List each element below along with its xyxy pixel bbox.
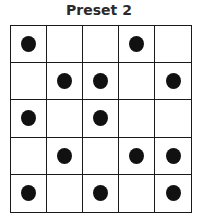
grid-cell-r2-c2 bbox=[47, 63, 83, 100]
grid-cell-r4-c3 bbox=[83, 138, 119, 175]
dot-icon bbox=[166, 185, 181, 201]
grid-cell-r4-c2 bbox=[47, 138, 83, 175]
dot-icon bbox=[129, 148, 144, 164]
grid-cell-r1-c5 bbox=[155, 26, 191, 63]
grid-cell-r1-c4 bbox=[119, 26, 155, 63]
grid-cell-r3-c4 bbox=[119, 100, 155, 137]
grid-cell-r4-c5 bbox=[155, 138, 191, 175]
dot-icon bbox=[93, 185, 108, 201]
grid-cell-r3-c1 bbox=[11, 100, 47, 137]
grid-cell-r3-c3 bbox=[83, 100, 119, 137]
grid-cell-r1-c3 bbox=[83, 26, 119, 63]
grid-cell-r5-c1 bbox=[11, 175, 47, 212]
grid-cell-r1-c1 bbox=[11, 26, 47, 63]
grid-cell-r5-c5 bbox=[155, 175, 191, 212]
grid-cell-r2-c4 bbox=[119, 63, 155, 100]
grid-cell-r3-c2 bbox=[47, 100, 83, 137]
dot-icon bbox=[21, 36, 36, 52]
dot-icon bbox=[93, 73, 108, 89]
preset-title: Preset 2 bbox=[0, 1, 198, 19]
dot-icon bbox=[166, 148, 181, 164]
grid-cell-r5-c3 bbox=[83, 175, 119, 212]
grid-cell-r5-c2 bbox=[47, 175, 83, 212]
dot-icon bbox=[21, 110, 36, 126]
dot-icon bbox=[166, 73, 181, 89]
dot-icon bbox=[57, 73, 72, 89]
grid-cell-r2-c1 bbox=[11, 63, 47, 100]
grid-cell-r5-c4 bbox=[119, 175, 155, 212]
dot-icon bbox=[129, 36, 144, 52]
grid-cell-r2-c3 bbox=[83, 63, 119, 100]
grid-cell-r2-c5 bbox=[155, 63, 191, 100]
grid-cell-r3-c5 bbox=[155, 100, 191, 137]
dot-icon bbox=[93, 110, 108, 126]
grid-cell-r1-c2 bbox=[47, 26, 83, 63]
dot-grid bbox=[10, 25, 192, 213]
dot-icon bbox=[21, 185, 36, 201]
grid-cell-r4-c4 bbox=[119, 138, 155, 175]
grid-cell-r4-c1 bbox=[11, 138, 47, 175]
dot-icon bbox=[57, 148, 72, 164]
